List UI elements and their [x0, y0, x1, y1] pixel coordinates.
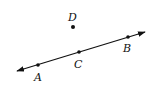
point-label-a: A [33, 71, 42, 84]
point-label-d: D [67, 11, 77, 24]
point-d: D [67, 11, 77, 29]
point-dot-c [77, 50, 81, 54]
point-dot-b [126, 35, 130, 39]
point-dot-d [71, 25, 75, 29]
diagram-svg: ACBD [0, 0, 156, 87]
point-label-b: B [122, 42, 131, 55]
geometry-diagram: ACBD [0, 0, 156, 87]
point-dot-a [36, 63, 40, 67]
point-label-c: C [74, 58, 83, 71]
